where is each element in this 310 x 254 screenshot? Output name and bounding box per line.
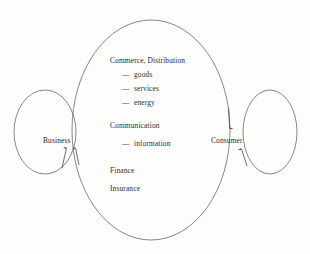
em-dash-marker: —: [122, 70, 130, 79]
em-dash-marker: —: [122, 84, 130, 93]
flow-item-label: information: [134, 139, 171, 148]
flow-item-label: services: [134, 84, 159, 93]
arrow-into-consumer-from-main: [229, 108, 230, 129]
flow-item-services: —services: [122, 84, 159, 93]
consumer-self-loop-ellipse: [243, 90, 297, 174]
node-label-consumer: Consumer: [211, 136, 243, 145]
flow-heading-finance: Finance: [110, 166, 134, 175]
flow-diagram: Business Consumer Commerce, Distribution…: [0, 0, 310, 254]
flow-heading-communication: Communication: [110, 121, 160, 130]
flow-item-information: —information: [122, 139, 171, 148]
main-flow-ellipse: [72, 20, 230, 240]
node-label-business: Business: [43, 136, 70, 145]
flow-heading-insurance: Insurance: [110, 184, 140, 193]
flow-item-goods: —goods: [122, 70, 152, 79]
em-dash-marker: —: [122, 139, 130, 148]
business-self-loop-ellipse: [14, 90, 76, 174]
em-dash-marker: —: [122, 98, 130, 107]
flow-item-energy: —energy: [122, 98, 155, 107]
flow-item-label: goods: [134, 70, 152, 79]
flow-heading-commerce: Commerce, Distribution: [110, 56, 185, 65]
arrow-into-business-from-main: [76, 148, 80, 165]
flow-item-label: energy: [134, 98, 155, 107]
